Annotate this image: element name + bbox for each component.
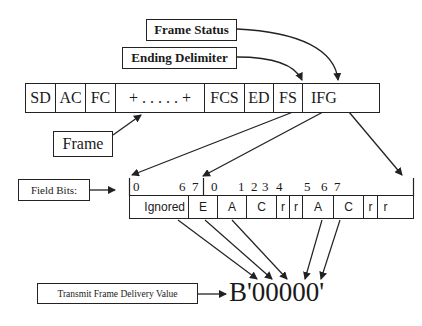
bit-field-e: E bbox=[189, 196, 218, 218]
frame-field-fcs: FCS bbox=[205, 84, 245, 112]
bit-field-c: C bbox=[247, 196, 277, 218]
field-bits-text: Field Bits: bbox=[31, 184, 77, 196]
bit-field-a: A bbox=[218, 196, 247, 218]
bit-fields-row: Ignored E A C r r A C r r bbox=[129, 195, 414, 219]
bit-number: 1 bbox=[238, 179, 245, 195]
frame-field-data: + . . . . . + bbox=[116, 84, 205, 112]
frame-field-sd: SD bbox=[26, 84, 56, 112]
frame-field-fc: FC bbox=[86, 84, 116, 112]
frame-arrow bbox=[113, 115, 141, 135]
bit-number: 0 bbox=[211, 179, 218, 195]
bit-field-ignored: Ignored bbox=[130, 196, 189, 218]
transmit-frame-delivery-value-label: Transmit Frame Delivery Value bbox=[37, 283, 198, 304]
transmit-frame-delivery-value-text: Transmit Frame Delivery Value bbox=[57, 289, 177, 299]
frame-field-fs: FS bbox=[274, 84, 303, 112]
bit-number: 7 bbox=[334, 179, 341, 195]
bit-field-r: r bbox=[290, 196, 303, 218]
bit-field-r: r bbox=[277, 196, 290, 218]
frame-field-ed: ED bbox=[245, 84, 274, 112]
frame-field-ifg: IFG bbox=[303, 84, 378, 112]
frame-status-label: Frame Status bbox=[146, 19, 237, 41]
frame-field-ac: AC bbox=[56, 84, 86, 112]
bit-number: 2 bbox=[251, 179, 258, 195]
bit-number: 3 bbox=[262, 179, 269, 195]
field-bits-label: Field Bits: bbox=[18, 179, 90, 201]
frame-fields-row: SD AC FC + . . . . . + FCS ED FS IFG bbox=[25, 83, 380, 113]
bit-field-r: r bbox=[378, 196, 393, 218]
bit-field-c: C bbox=[334, 196, 364, 218]
bit-number: 5 bbox=[304, 179, 311, 195]
frame-status-arrow bbox=[237, 29, 338, 80]
bit-field-r: r bbox=[364, 196, 378, 218]
ending-delimiter-label: Ending Delimiter bbox=[122, 47, 237, 69]
bit-field-a: A bbox=[303, 196, 334, 218]
bit-number: 6 bbox=[179, 179, 186, 195]
bit-number: 0 bbox=[133, 179, 140, 195]
bit-number: 4 bbox=[276, 179, 283, 195]
bit-number: 6 bbox=[321, 179, 328, 195]
ending-delimiter-text: Ending Delimiter bbox=[131, 50, 227, 66]
delivery-value: B'00000' bbox=[229, 276, 324, 308]
frame-status-text: Frame Status bbox=[154, 22, 229, 38]
frame-text: Frame bbox=[63, 135, 104, 153]
bit-number: 7 bbox=[192, 179, 199, 195]
frame-label: Frame bbox=[53, 131, 113, 157]
ending-delimiter-arrow bbox=[237, 57, 302, 80]
